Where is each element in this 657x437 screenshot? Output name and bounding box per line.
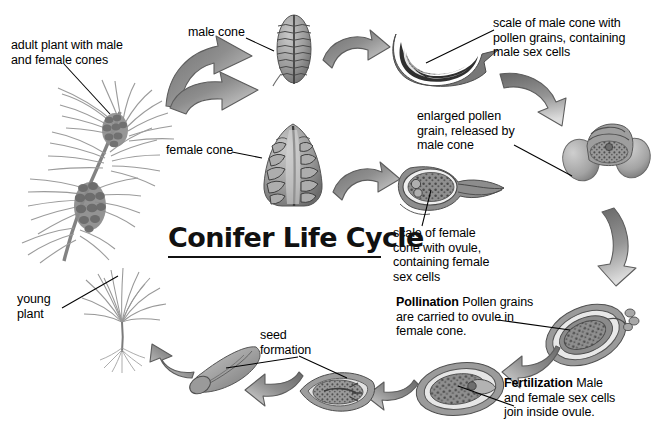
male-scale-illustration (388, 28, 506, 90)
label-female-cone: female cone (166, 143, 233, 158)
pollen-grain-illustration (563, 116, 651, 188)
label-male-cone: male cone (188, 25, 245, 40)
conifer-life-cycle-diagram: adult plant with male and female cones (0, 0, 657, 437)
lower-cone-cluster (74, 182, 106, 233)
male-cone-illustration (269, 12, 319, 86)
label-pollination: Pollination Pollen grains are carried to… (396, 295, 556, 339)
fertilized-ovule-illustration (412, 358, 512, 420)
label-scale-male: scale of male cone with pollen grains, c… (493, 16, 653, 60)
developing-seed-illustration (296, 363, 378, 419)
label-pollen-grain: enlarged pollen grain, released by male … (417, 109, 567, 153)
female-cone-illustration (258, 122, 328, 208)
fertilization-term: Fertilization (504, 376, 573, 390)
forked-arrow-to-cones (160, 34, 265, 116)
pollen-entering (624, 309, 639, 331)
page-title: Conifer Life Cycle (168, 222, 424, 253)
female-scale-illustration (386, 164, 514, 226)
arrow-male-cone-to-scale (320, 30, 392, 76)
label-seed-formation: seed formation (260, 328, 350, 357)
pollination-term: Pollination (396, 295, 459, 309)
label-fertilization: Fertilization Male and female sex cells … (504, 376, 656, 420)
title-underline (168, 256, 381, 258)
winged-seed-illustration (186, 345, 266, 399)
label-young-plant: young plant (17, 292, 97, 321)
arrow-pollen-to-pollination (594, 206, 650, 288)
